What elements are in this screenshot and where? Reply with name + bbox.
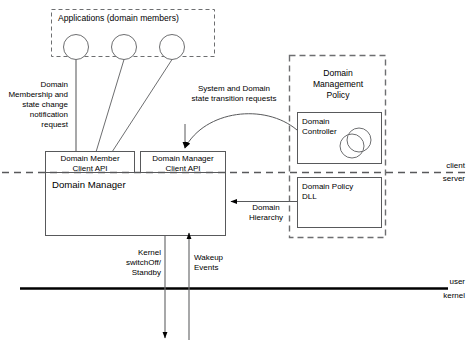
wakeup-events-annotation: Wakeup Events <box>194 253 250 273</box>
kernel-switchoff-annotation: Kernel switchOff/ Standby <box>104 248 161 278</box>
actor-connector-line <box>112 60 172 153</box>
client-boundary-label: client <box>420 161 465 171</box>
domain-policy-dll-label: Domain Policy DLL <box>302 182 378 202</box>
domain-controller-label: Domain Controller <box>302 117 372 137</box>
user-boundary-label: user <box>420 277 465 287</box>
application-actor-circle <box>64 35 89 60</box>
application-actor-circle <box>112 35 137 60</box>
state-transition-requests-annotation: System and Domain state transition reque… <box>181 84 287 104</box>
server-boundary-label: server <box>420 174 465 184</box>
kernel-boundary-label: kernel <box>420 291 465 301</box>
domain-manager-client-api-label: Domain Manager Client API <box>140 154 226 174</box>
diagram-vector-layer <box>0 0 470 350</box>
membership-request-annotation: Domain Membership and state change notif… <box>6 80 68 130</box>
diagram-canvas: Applications (domain members) Domain Man… <box>0 0 470 350</box>
state-transition-request-arrow <box>185 114 297 148</box>
actor-connector-line <box>96 60 124 153</box>
domain-manager-label: Domain Manager <box>52 180 172 190</box>
domain-hierarchy-annotation: Domain Hierarchy <box>236 203 296 223</box>
applications-group-label: Applications (domain members) <box>58 13 208 23</box>
application-actor-circle <box>160 35 185 60</box>
domain-management-policy-label: Domain Management Policy <box>295 68 381 101</box>
domain-member-client-api-label: Domain Member Client API <box>45 154 135 174</box>
